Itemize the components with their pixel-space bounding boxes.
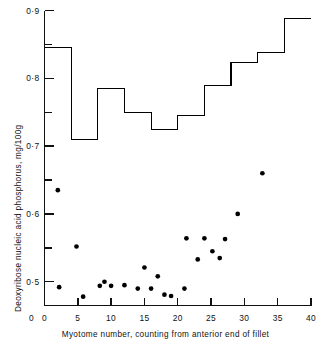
scatter-point (135, 286, 140, 291)
y-tick-label: 0·8 (26, 73, 39, 83)
x-tick-label: 35 (273, 313, 283, 323)
scatter-point (122, 283, 127, 288)
x-tick-label: 30 (239, 313, 249, 323)
scatter-point (142, 265, 147, 270)
y-tick-label: 0·5 (26, 277, 39, 287)
y-tick-label: 0·6 (26, 209, 39, 219)
x-axis-title: Myotome number, counting from anterior e… (0, 330, 331, 339)
scatter-points (55, 171, 264, 299)
y-axis-ticks (45, 11, 54, 282)
x-tick-label: 40 (306, 313, 316, 323)
scatter-point (74, 244, 79, 249)
y-axis-tick-labels: 0·50·60·70·80·9 (26, 6, 39, 287)
scatter-point (57, 285, 62, 290)
dna-phosphorus-scatter-figure: 0·50·60·70·80·9 0510152025303540 0 Myoto… (0, 0, 331, 347)
scatter-point (217, 256, 222, 261)
x-tick-label: 15 (139, 313, 149, 323)
x-tick-label: 10 (106, 313, 116, 323)
scatter-point (109, 283, 114, 288)
y-axis-origin-label: 0 (29, 313, 34, 323)
scatter-point (149, 286, 154, 291)
y-tick-label: 0·7 (26, 141, 39, 151)
scatter-point (260, 171, 265, 176)
x-tick-label: 25 (206, 313, 216, 323)
plot-area: 0·50·60·70·80·9 0510152025303540 0 (0, 0, 331, 347)
scatter-point (202, 236, 207, 241)
scatter-point (155, 274, 160, 279)
y-tick-label: 0·9 (26, 6, 39, 16)
scatter-point (55, 188, 60, 193)
scatter-point (235, 212, 240, 217)
x-tick-label: 5 (75, 313, 80, 323)
y-axis-title: Deoxyribose nucleic acid phosphorus, mg/… (14, 125, 23, 312)
scatter-point (169, 294, 174, 299)
scatter-point (195, 257, 200, 262)
x-axis-tick-labels: 0510152025303540 (42, 313, 316, 323)
scatter-point (81, 294, 86, 299)
x-tick-label: 20 (173, 313, 183, 323)
scatter-point (162, 292, 167, 297)
step-histogram-line (45, 19, 312, 140)
axis-lines (45, 11, 312, 306)
scatter-point (102, 279, 107, 284)
scatter-point (210, 249, 215, 254)
scatter-point (182, 286, 187, 291)
scatter-point (184, 236, 189, 241)
x-axis-ticks (78, 298, 311, 306)
x-tick-label: 0 (42, 313, 47, 323)
scatter-point (223, 237, 228, 242)
scatter-point (97, 283, 102, 288)
